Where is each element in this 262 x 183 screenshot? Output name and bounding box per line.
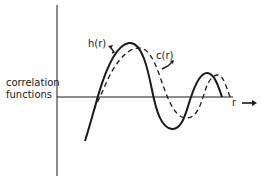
h-r-label: h(r): [88, 38, 106, 49]
c-r-pointer-icon: [162, 60, 174, 69]
h-r-curve: [85, 43, 222, 141]
y-axis-label-line1: correlation: [6, 77, 60, 89]
y-axis-label: correlation functions: [6, 77, 60, 101]
h-r-pointer-icon: [108, 45, 114, 53]
x-axis-label: r: [232, 97, 236, 108]
correlation-functions-diagram: correlation functions h(r) c(r) r: [0, 0, 262, 183]
y-axis-label-line2: functions: [6, 89, 60, 101]
c-r-label: c(r): [156, 50, 173, 61]
r-arrow-icon: [242, 100, 257, 106]
